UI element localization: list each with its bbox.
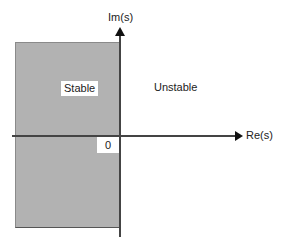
imaginary-axis-arrow-icon xyxy=(115,27,125,36)
imaginary-axis-label: Im(s) xyxy=(108,11,133,24)
stable-region-label: Stable xyxy=(61,81,98,96)
imaginary-axis xyxy=(119,34,121,237)
real-axis-arrow-icon xyxy=(235,131,243,141)
real-axis-label: Re(s) xyxy=(246,129,273,142)
origin-label: 0 xyxy=(97,137,119,153)
unstable-region-label: Unstable xyxy=(154,81,197,94)
real-axis xyxy=(12,135,238,137)
